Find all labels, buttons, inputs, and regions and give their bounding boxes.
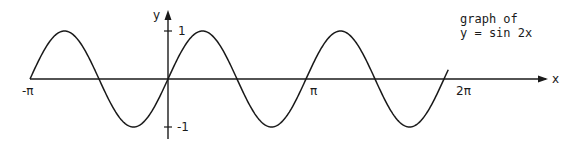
y-tick-label-1: 1 [178,24,186,38]
x-axis-label: x [552,72,559,86]
y-axis-arrow-icon [165,10,172,20]
graph-title-line-2: y = sin 2x [460,26,532,40]
sine-graph: x y 1 -1 -π π 2π graph of y = sin 2x [0,0,574,149]
y-tick-label-neg1: -1 [177,120,189,134]
x-axis-arrow-icon [538,76,548,83]
x-tick-label-pi: π [310,84,317,98]
x-tick-label-2pi: 2π [456,84,471,98]
graph-title-line-1: graph of [460,12,518,26]
y-axis-label: y [153,8,160,22]
x-tick-label-neg-pi: -π [22,84,34,98]
